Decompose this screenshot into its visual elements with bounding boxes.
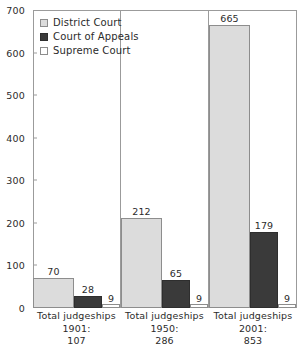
bar-value-district-court-2001: 665 bbox=[220, 13, 239, 24]
x-caption-2001-line1: Total judgeships bbox=[209, 310, 297, 323]
legend-label-court-of-appeals: Court of Appeals bbox=[53, 30, 139, 43]
x-caption-1901: Total judgeships 1901: 107 bbox=[33, 310, 120, 348]
x-caption-1901-line1: Total judgeships bbox=[33, 310, 120, 323]
legend: District Court Court of Appeals Supreme … bbox=[40, 16, 139, 57]
x-caption-1901-line3: 107 bbox=[33, 335, 120, 348]
x-caption-2001-line3: 853 bbox=[209, 335, 297, 348]
x-caption-1950-line1: Total judgeships bbox=[121, 310, 208, 323]
bar-value-supreme-court-1901: 9 bbox=[108, 293, 114, 304]
dark-gray-swatch-icon bbox=[40, 33, 48, 41]
x-caption-2001: Total judgeships 2001: 853 bbox=[209, 310, 297, 348]
bar-value-court-of-appeals-1950: 65 bbox=[170, 268, 183, 279]
legend-item-district-court[interactable]: District Court bbox=[40, 16, 139, 29]
bar-chart: 700 600 500 400 300 200 100 0 70 28 bbox=[0, 0, 307, 358]
bar-supreme-court-1950[interactable]: 9 bbox=[190, 304, 208, 308]
legend-label-supreme-court: Supreme Court bbox=[53, 44, 131, 57]
x-caption-1950-line2: 1950: bbox=[121, 323, 208, 336]
x-caption-1901-line2: 1901: bbox=[33, 323, 120, 336]
bar-value-district-court-1950: 212 bbox=[132, 206, 151, 217]
bar-value-court-of-appeals-1901: 28 bbox=[82, 284, 95, 295]
x-caption-1950-line3: 286 bbox=[121, 335, 208, 348]
bar-supreme-court-1901[interactable]: 9 bbox=[102, 304, 120, 308]
y-tick-label-100: 100 bbox=[6, 260, 25, 271]
y-tick-label-700: 700 bbox=[6, 5, 25, 16]
y-tick-label-0: 0 bbox=[19, 303, 25, 314]
legend-item-supreme-court[interactable]: Supreme Court bbox=[40, 44, 139, 57]
bar-group-2001: 665 179 9 bbox=[209, 10, 297, 308]
y-tick-label-200: 200 bbox=[6, 217, 25, 228]
y-tick-label-400: 400 bbox=[6, 132, 25, 143]
bar-court-of-appeals-1950[interactable]: 65 bbox=[162, 280, 190, 308]
bar-value-court-of-appeals-2001: 179 bbox=[255, 220, 274, 231]
bar-value-supreme-court-1950: 9 bbox=[196, 293, 202, 304]
bar-value-supreme-court-2001: 9 bbox=[284, 293, 290, 304]
light-gray-swatch-icon bbox=[40, 19, 48, 27]
legend-label-district-court: District Court bbox=[53, 16, 122, 29]
bar-value-district-court-1901: 70 bbox=[47, 266, 60, 277]
bar-district-court-1950[interactable]: 212 bbox=[121, 218, 162, 308]
y-axis: 700 600 500 400 300 200 100 0 bbox=[0, 0, 33, 358]
white-swatch-icon bbox=[40, 47, 48, 55]
bar-supreme-court-2001[interactable]: 9 bbox=[278, 304, 296, 308]
x-caption-2001-line2: 2001: bbox=[209, 323, 297, 336]
bar-court-of-appeals-2001[interactable]: 179 bbox=[250, 232, 278, 308]
x-caption-1950: Total judgeships 1950: 286 bbox=[121, 310, 208, 348]
bar-district-court-1901[interactable]: 70 bbox=[33, 278, 74, 308]
legend-item-court-of-appeals[interactable]: Court of Appeals bbox=[40, 30, 139, 43]
y-tick-label-300: 300 bbox=[6, 175, 25, 186]
y-tick-label-500: 500 bbox=[6, 90, 25, 101]
x-axis-captions: Total judgeships 1901: 107 Total judgesh… bbox=[33, 310, 297, 358]
bar-district-court-2001[interactable]: 665 bbox=[209, 25, 250, 308]
y-tick-label-600: 600 bbox=[6, 47, 25, 58]
bar-court-of-appeals-1901[interactable]: 28 bbox=[74, 296, 102, 308]
